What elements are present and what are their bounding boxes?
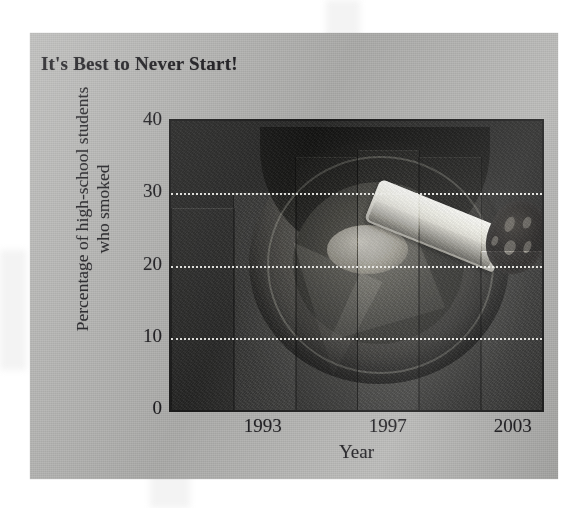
scan-smudge	[326, 0, 360, 36]
gridline-10	[171, 338, 542, 340]
y-tick-10: 10	[143, 325, 162, 347]
x-tick-labels: 199319972003	[169, 415, 544, 443]
y-tick-20: 20	[143, 253, 162, 275]
x-tick-2003: 2003	[494, 415, 532, 437]
y-tick-0: 0	[153, 397, 163, 419]
chart-panel: It's Best to Never Start! Percentage of …	[30, 33, 558, 479]
y-axis-label-line1: Percentage of high-school students	[72, 87, 93, 331]
bar-1991	[171, 208, 235, 410]
plot-area	[169, 119, 544, 412]
gridline-20	[171, 266, 542, 268]
bar-1997	[357, 150, 421, 410]
y-axis-label-line2: who smoked	[93, 165, 114, 254]
x-tick-1997: 1997	[369, 415, 407, 437]
x-axis-label: Year	[169, 441, 544, 463]
bar-2003	[480, 251, 544, 410]
x-tick-1993: 1993	[244, 415, 282, 437]
y-tick-labels: 40 30 20 10 0	[114, 119, 162, 408]
gridline-30	[171, 193, 542, 195]
y-axis-label: Percentage of high-school students who s…	[67, 54, 119, 364]
y-tick-40: 40	[143, 108, 162, 130]
y-tick-30: 30	[143, 180, 162, 202]
bar-1993	[233, 193, 297, 410]
figure-page: It's Best to Never Start! Percentage of …	[0, 0, 586, 508]
scan-smudge	[0, 250, 26, 370]
